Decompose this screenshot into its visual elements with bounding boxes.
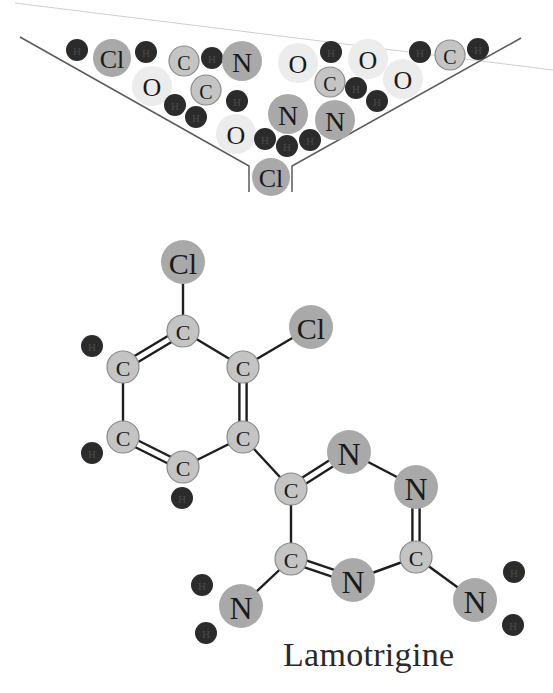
atom-symbol: H: [509, 620, 517, 632]
carbon-atom: C: [315, 67, 345, 97]
atom-symbol: C: [116, 426, 131, 451]
atom-symbol: H: [171, 100, 179, 112]
atom-symbol: C: [323, 73, 336, 95]
hydrogen-atom: H: [164, 94, 186, 116]
atom-symbol: O: [289, 50, 308, 79]
hydrogen-atom: H: [276, 135, 298, 157]
hydrogen-atom: H: [345, 77, 367, 99]
hydrogen-atom: H: [201, 47, 223, 69]
lamotrigine-diagram: HClHCHNOCHHHOOHOCHHONNHHHClHCH ClCClCCCC…: [0, 0, 553, 693]
carbon-atom: C: [227, 351, 259, 383]
atom-symbol: H: [416, 47, 424, 59]
atom-symbol: O: [394, 66, 413, 95]
atom-symbol: H: [306, 135, 314, 147]
carbon-atom: C: [275, 543, 307, 575]
hydrogen-atom: H: [409, 41, 431, 63]
atom-symbol: H: [88, 341, 96, 353]
nitrogen-atom: N: [219, 584, 263, 628]
carbon-atom: C: [167, 315, 199, 347]
hydrogen-atom: H: [320, 41, 342, 63]
hydrogen-atom: H: [366, 90, 388, 112]
atom-symbol: H: [192, 112, 200, 124]
hydrogen-atom: H: [66, 39, 88, 61]
oxygen-atom: O: [278, 43, 318, 83]
nitrogen-atom: N: [268, 94, 308, 134]
hydrogen-atom: H: [81, 442, 103, 464]
atom-symbol: N: [325, 106, 345, 137]
atom-symbol: C: [176, 456, 191, 481]
atom-symbol: H: [208, 53, 216, 65]
atom-symbol: H: [178, 493, 186, 505]
chlorine-atom: Cl: [252, 158, 290, 196]
nitrogen-atom: N: [222, 41, 262, 81]
hydrogen-atom: H: [299, 129, 321, 151]
molecule-name-caption: Lamotrigine: [283, 636, 454, 674]
carbon-atom: C: [435, 40, 465, 70]
atom-symbol: C: [236, 426, 251, 451]
atom-symbol: C: [284, 478, 299, 503]
atom-symbol: C: [409, 546, 424, 571]
atom-symbol: H: [88, 448, 96, 460]
atom-symbol: H: [73, 45, 81, 57]
hydrogen-atom: H: [171, 487, 193, 509]
atom-symbol: Cl: [297, 312, 325, 345]
atom-symbol: N: [337, 436, 360, 472]
atom-symbol: C: [199, 81, 212, 103]
carbon-atom: C: [107, 351, 139, 383]
atom-symbol: C: [443, 46, 456, 68]
hydrogen-atom: H: [195, 622, 217, 644]
reactant-atom-pool: HClHCHNOCHHHOOHOCHHONNHHHClHCH: [66, 38, 489, 196]
atom-symbol: C: [176, 320, 191, 345]
nitrogen-atom: N: [331, 558, 375, 602]
nitrogen-atom: N: [453, 578, 497, 622]
atom-symbol: O: [143, 73, 162, 102]
oxygen-atom: O: [383, 59, 423, 99]
atom-symbol: H: [474, 44, 482, 56]
atom-symbol: C: [116, 356, 131, 381]
atom-symbol: N: [404, 471, 427, 507]
carbon-atom: C: [227, 421, 259, 453]
atom-symbol: H: [202, 628, 210, 640]
hydrogen-atom: H: [185, 106, 207, 128]
atom-symbol: N: [463, 584, 486, 620]
carbon-atom: C: [169, 46, 199, 76]
carbon-atom: C: [107, 421, 139, 453]
chlorine-atom: Cl: [289, 305, 333, 349]
atom-symbol: H: [327, 47, 335, 59]
atom-symbol: C: [236, 356, 251, 381]
nitrogen-atom: N: [315, 100, 355, 140]
atom-symbol: Cl: [169, 247, 197, 280]
atom-symbol: H: [198, 580, 206, 592]
atom-symbol: C: [177, 52, 190, 74]
hydrogen-atom: H: [503, 561, 525, 583]
chlorine-atom: Cl: [93, 39, 131, 77]
molecule-atoms: ClCClCCCCCHHHCNNCNCNNHHHH: [81, 240, 525, 644]
atom-symbol: H: [352, 83, 360, 95]
atom-symbol: N: [232, 47, 252, 78]
oxygen-atom: O: [216, 114, 256, 154]
atom-symbol: H: [142, 47, 150, 59]
carbon-atom: C: [191, 75, 221, 105]
carbon-atom: C: [167, 451, 199, 483]
atom-symbol: N: [229, 590, 252, 626]
hydrogen-atom: H: [502, 614, 524, 636]
atom-symbol: H: [233, 96, 241, 108]
atom-symbol: C: [284, 548, 299, 573]
nitrogen-atom: N: [394, 465, 438, 509]
atom-symbol: Cl: [100, 45, 125, 74]
hydrogen-atom: H: [81, 335, 103, 357]
atom-symbol: O: [227, 121, 246, 150]
hydrogen-atom: H: [135, 41, 157, 63]
hydrogen-atom: H: [254, 128, 276, 150]
atom-symbol: N: [341, 564, 364, 600]
atom-symbol: H: [373, 96, 381, 108]
carbon-atom: C: [275, 473, 307, 505]
atom-symbol: Cl: [259, 164, 284, 193]
hydrogen-atom: H: [226, 90, 248, 112]
carbon-atom: C: [400, 541, 432, 573]
nitrogen-atom: N: [327, 430, 371, 474]
hydrogen-atom: H: [191, 574, 213, 596]
atom-symbol: O: [359, 46, 378, 75]
chlorine-atom: Cl: [161, 240, 205, 284]
atom-symbol: N: [278, 100, 298, 131]
